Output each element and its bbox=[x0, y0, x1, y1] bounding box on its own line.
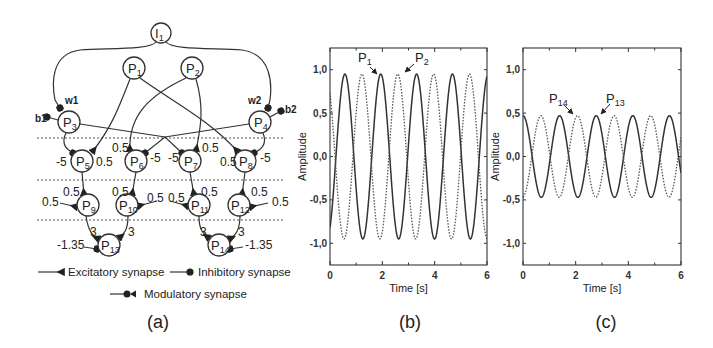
neuron-node-p12: P12 bbox=[228, 194, 250, 216]
neuron-node-p9: P9 bbox=[77, 194, 99, 216]
annotation-arrow bbox=[370, 67, 377, 74]
weight-label: 0.5 bbox=[147, 191, 164, 205]
x-tick-label: 6 bbox=[484, 270, 490, 281]
neuron-node-p2: P2 bbox=[181, 57, 203, 79]
y-tick-label: 0,5 bbox=[313, 108, 327, 119]
weight-label: 0.5 bbox=[202, 141, 219, 155]
legend-modulatory: Modulatory synapse bbox=[110, 288, 247, 300]
series-p13 bbox=[523, 116, 681, 198]
legend-inhibitory-label: Inhibitory synapse bbox=[198, 266, 291, 278]
connections bbox=[47, 42, 281, 249]
x-tick-label: 2 bbox=[380, 270, 386, 281]
panel-label-a: (a) bbox=[147, 312, 169, 332]
y-axis-label: Amplitude bbox=[489, 132, 501, 181]
y-tick-label: -0,5 bbox=[503, 194, 521, 205]
weight-label: -1.35 bbox=[57, 238, 85, 252]
weight-label: 0.5 bbox=[63, 185, 80, 199]
panel-label-c: (c) bbox=[596, 312, 617, 332]
neuron-node-p5: P5 bbox=[71, 150, 93, 172]
legend: Excitatory synapse Inhibitory synapse Mo… bbox=[38, 266, 291, 300]
weight-label: 0.5 bbox=[201, 185, 218, 199]
legend-modulatory-label: Modulatory synapse bbox=[144, 288, 247, 300]
y-tick-label: 1,0 bbox=[506, 64, 520, 75]
x-tick-label: 4 bbox=[432, 270, 438, 281]
series-p1 bbox=[330, 74, 487, 239]
weight-label: -5 bbox=[150, 151, 161, 165]
y-tick-label: -0,5 bbox=[310, 194, 328, 205]
annotation-p1: P1 bbox=[358, 50, 372, 67]
x-tick-label: 4 bbox=[626, 270, 632, 281]
y-axis-label: Amplitude bbox=[296, 132, 308, 181]
weight-label: 0.5 bbox=[112, 141, 129, 155]
weight-label: 0.5 bbox=[96, 155, 113, 169]
weight-label: 3 bbox=[200, 225, 207, 239]
weight-label: b2 bbox=[285, 104, 297, 115]
y-tick-label: -1,0 bbox=[503, 238, 521, 249]
weight-label: 3 bbox=[90, 225, 97, 239]
x-axis-label: Time [s] bbox=[389, 282, 428, 294]
chart-b: 1,00,50,0-0,5-1,00246Time [s]AmplitudeP1… bbox=[296, 48, 490, 294]
weight-label: w1 bbox=[64, 95, 79, 106]
x-axis-label: Time [s] bbox=[583, 282, 622, 294]
x-tick-label: 2 bbox=[573, 270, 579, 281]
neuron-node-p13: P13 bbox=[98, 234, 120, 256]
weight-label: -5 bbox=[168, 151, 179, 165]
network-diagram: I1P1P2P3P4P5P6P7P8P9P10P11P12P13P14 w1b1… bbox=[35, 23, 297, 332]
weight-label: b1 bbox=[35, 113, 47, 124]
weight-label: -5 bbox=[56, 155, 67, 169]
legend-inhibitory: Inhibitory synapse bbox=[170, 266, 291, 278]
weight-label: 0.5 bbox=[251, 185, 268, 199]
y-tick-label: 0,0 bbox=[313, 151, 327, 162]
weight-label: 0.5 bbox=[112, 185, 129, 199]
weight-label: w2 bbox=[247, 95, 262, 106]
x-tick-label: 6 bbox=[678, 270, 684, 281]
annotation-p2: P2 bbox=[415, 50, 429, 67]
y-tick-label: 0,5 bbox=[506, 108, 520, 119]
x-tick-label: 0 bbox=[327, 270, 333, 281]
y-tick-label: 0,0 bbox=[506, 151, 520, 162]
legend-excitatory: Excitatory synapse bbox=[38, 266, 165, 278]
weight-label: -5 bbox=[260, 151, 271, 165]
x-tick-label: 0 bbox=[520, 270, 526, 281]
panel-label-b: (b) bbox=[399, 312, 421, 332]
y-tick-label: -1,0 bbox=[310, 238, 328, 249]
annotation-arrow bbox=[564, 105, 573, 114]
weight-label: 0.5 bbox=[220, 155, 237, 169]
neuron-node-p1: P1 bbox=[123, 57, 145, 79]
weight-label: 0.5 bbox=[42, 195, 59, 209]
neuron-node-p14: P14 bbox=[208, 234, 230, 256]
y-tick-label: 1,0 bbox=[313, 64, 327, 75]
weight-label: 3 bbox=[128, 225, 135, 239]
neuron-node-p8: P8 bbox=[234, 150, 256, 172]
neuron-node-i1: I1 bbox=[151, 23, 171, 43]
figure: I1P1P2P3P4P5P6P7P8P9P10P11P12P13P14 w1b1… bbox=[0, 0, 713, 348]
neuron-nodes: I1P1P2P3P4P5P6P7P8P9P10P11P12P13P14 bbox=[58, 23, 271, 256]
weight-label: 0.5 bbox=[168, 191, 185, 205]
neuron-node-p3: P3 bbox=[58, 111, 80, 133]
annotation-arrow bbox=[405, 64, 414, 72]
chart-c: 1,00,50,0-0,5-1,00246Time [s]AmplitudeP1… bbox=[489, 48, 684, 294]
neuron-node-p7: P7 bbox=[179, 150, 201, 172]
neuron-node-p4: P4 bbox=[249, 111, 271, 133]
plot-frame bbox=[523, 48, 681, 265]
weight-label: -1.35 bbox=[245, 238, 273, 252]
weight-label: 3 bbox=[238, 225, 245, 239]
legend-excitatory-label: Excitatory synapse bbox=[68, 266, 165, 278]
weight-label: 0.5 bbox=[272, 195, 289, 209]
series-p14 bbox=[523, 116, 681, 198]
